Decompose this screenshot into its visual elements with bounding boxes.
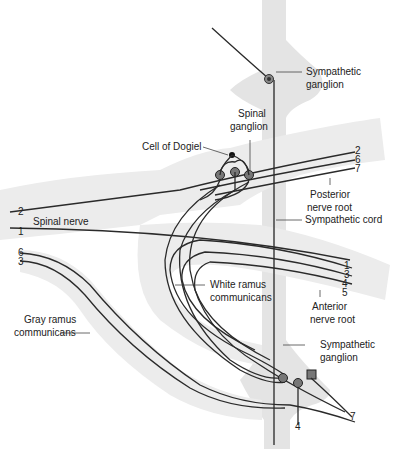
svg-text:Anteriornerve root: Anteriornerve root: [310, 301, 355, 325]
fiber-numbers-anterior: 1 3 4 5: [342, 260, 350, 298]
svg-text:7: 7: [355, 163, 361, 174]
label-gray-ramus: Gray ramuscommunicans: [14, 314, 76, 338]
label-anterior-nerve-root: Anteriornerve root: [310, 301, 355, 325]
label-cell-of-dogiel: Cell of Dogiel: [142, 141, 201, 152]
svg-text:1: 1: [18, 226, 24, 237]
label-sympathetic-ganglion-bottom: Sympatheticganglion: [320, 339, 375, 363]
nervous-system-diagram: Sympatheticganglion Spinalganglion Cell …: [0, 0, 408, 449]
svg-text:5: 5: [342, 287, 348, 298]
label-sympathetic-cord: Sympathetic cord: [305, 214, 382, 225]
svg-text:Posteriornerve root: Posteriornerve root: [307, 189, 352, 213]
label-posterior-nerve-root: Posteriornerve root: [307, 189, 352, 213]
svg-text:Sympatheticganglion: Sympatheticganglion: [320, 339, 375, 363]
fiber-numbers-posterior: 2 6 7: [355, 145, 361, 174]
fiber-numbers-gray-left: 6 3: [18, 247, 24, 267]
svg-text:3: 3: [18, 256, 24, 267]
svg-text:4: 4: [295, 421, 301, 432]
svg-text:7: 7: [350, 411, 356, 422]
svg-text:Gray ramuscommunicans: Gray ramuscommunicans: [14, 314, 76, 338]
svg-text:2: 2: [18, 206, 24, 217]
fiber-numbers-bottom: 4 7: [295, 411, 356, 432]
label-spinal-nerve: Spinal nerve: [33, 216, 89, 227]
